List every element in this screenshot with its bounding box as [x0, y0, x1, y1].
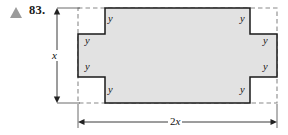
notch-label-top-left-vertical: y — [85, 36, 90, 47]
width-arrow-left-icon — [78, 119, 85, 125]
notch-label-bottom-right-vertical: y — [263, 62, 268, 73]
width-dimension-label: 2x — [168, 116, 182, 127]
notch-label-top-right-vertical: y — [263, 36, 268, 47]
height-arrow-down-icon — [54, 97, 60, 104]
notch-label-bottom-left-vertical: y — [85, 62, 90, 73]
notch-label-bottom-left-horizontal: y — [108, 85, 113, 96]
height-arrow-up-icon — [54, 8, 60, 15]
notch-label-top-left-horizontal: y — [108, 14, 113, 25]
figure-container: 83. x 2x y y y y y y y y — [0, 0, 288, 135]
notch-label-bottom-right-horizontal: y — [240, 85, 245, 96]
width-arrow-right-icon — [271, 119, 278, 125]
height-dimension-label: x — [50, 50, 59, 61]
notch-label-top-right-horizontal: y — [240, 14, 245, 25]
